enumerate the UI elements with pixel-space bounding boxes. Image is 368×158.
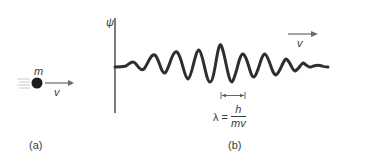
psi-axis-label: ψ	[106, 17, 114, 28]
panel-a-label: (a)	[29, 140, 42, 151]
motion-lines-icon	[17, 79, 30, 88]
velocity-label-a: v	[54, 87, 60, 98]
velocity-label-b: v	[297, 38, 303, 49]
formula-numerator: h	[234, 104, 242, 115]
diagram-canvas	[0, 0, 368, 158]
velocity-arrow-b-icon	[288, 31, 318, 37]
wavelength-formula: λ = h mv	[213, 104, 246, 129]
formula-denominator: mv	[231, 118, 246, 129]
panel-b-label: (b)	[228, 140, 241, 151]
formula-lhs: λ =	[213, 111, 228, 123]
mass-label: m	[34, 66, 43, 77]
particle-ball-icon	[32, 78, 43, 89]
wave-packet	[115, 45, 328, 82]
